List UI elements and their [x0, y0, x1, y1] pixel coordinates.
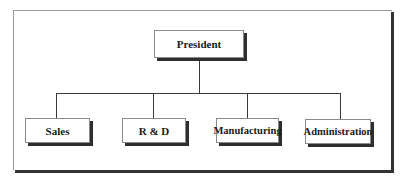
- connector-president-down: [199, 59, 200, 93]
- node-administration: Administration: [305, 119, 371, 144]
- frame-shadow-bottom: [15, 170, 394, 173]
- frame-shadow-right: [391, 12, 394, 173]
- node-rnd: R & D: [122, 118, 186, 143]
- connector-manufacturing: [247, 93, 248, 119]
- connector-administration: [340, 93, 341, 120]
- node-sales: Sales: [25, 118, 90, 143]
- connector-sales: [56, 93, 57, 119]
- node-president: President: [154, 30, 244, 58]
- node-label: R & D: [139, 125, 170, 137]
- node-label: Sales: [46, 125, 70, 137]
- node-label: Administration: [304, 126, 373, 137]
- node-label: President: [177, 38, 221, 50]
- connector-rnd: [153, 93, 154, 119]
- node-manufacturing: Manufacturing: [216, 118, 279, 143]
- connector-horizontal-bus: [56, 93, 341, 94]
- node-label: Manufacturing: [213, 125, 281, 136]
